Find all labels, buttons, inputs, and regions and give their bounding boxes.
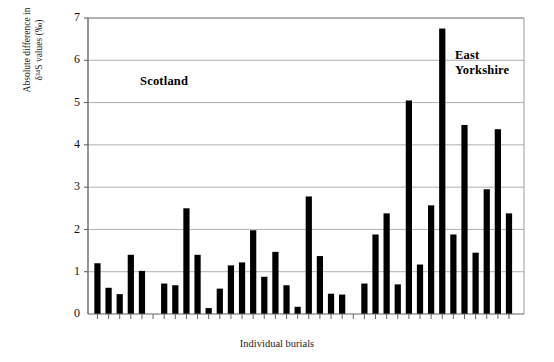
bar: [128, 255, 134, 314]
bar: [161, 284, 167, 314]
bar: [261, 277, 267, 314]
bar: [172, 285, 178, 314]
bar: [295, 307, 301, 314]
bar: [439, 29, 445, 314]
bar: [206, 308, 212, 314]
bar: [117, 294, 123, 314]
bar: [406, 100, 412, 314]
bar: [228, 265, 234, 314]
bar: [94, 263, 100, 314]
bar: [395, 284, 401, 314]
annotation-scotland: Scotland: [140, 74, 188, 89]
bar: [361, 284, 367, 314]
x-axis-ticks: [97, 314, 509, 319]
bar: [283, 285, 289, 314]
bar: [484, 189, 490, 314]
bar: [306, 196, 312, 314]
bar: [339, 295, 345, 314]
bar: [384, 213, 390, 314]
bar: [272, 252, 278, 314]
x-axis-title: Individual burials: [0, 338, 554, 349]
bar: [461, 125, 467, 314]
bar: [317, 256, 323, 314]
bar: [495, 129, 501, 314]
annotation-east-yorkshire-line1: East: [455, 48, 479, 62]
bar: [417, 265, 423, 314]
bar: [139, 271, 145, 314]
bar: [428, 205, 434, 314]
bar: [183, 208, 189, 314]
bar: [473, 253, 479, 314]
bar: [328, 294, 334, 314]
bar: [217, 289, 223, 314]
bar: [250, 230, 256, 314]
bar: [239, 262, 245, 314]
chart-container: Absolute difference in δ³⁴S values (‰) 7…: [0, 0, 554, 362]
bar: [194, 255, 200, 314]
bar-series: [94, 29, 512, 314]
bar: [450, 235, 456, 315]
bar: [506, 213, 512, 314]
annotation-east-yorkshire-line2: Yorkshire: [455, 63, 509, 77]
annotation-east-yorkshire: East Yorkshire: [455, 48, 509, 78]
bar: [372, 235, 378, 315]
bar: [105, 288, 111, 314]
